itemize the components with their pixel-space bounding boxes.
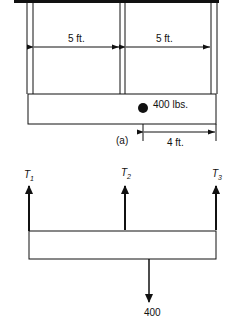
offset-label: 4 ft.	[167, 137, 184, 148]
tension-1-label: T1	[24, 169, 34, 182]
ceiling-bar	[14, 0, 219, 3]
cable-middle	[120, 3, 125, 94]
beam-b	[29, 231, 216, 259]
figure-a-caption: (a)	[116, 135, 128, 146]
free-body-diagram: 5 ft. 5 ft. 400 lbs. 4 ft. (a) T1 T2 T3 …	[0, 0, 231, 321]
weight-label: 400 lbs.	[153, 99, 188, 110]
right-span-label: 5 ft.	[156, 33, 173, 44]
figure-a: 5 ft. 5 ft. 400 lbs. 4 ft. (a)	[14, 0, 219, 148]
cable-right	[211, 3, 217, 94]
left-span-label: 5 ft.	[68, 33, 85, 44]
tension-2-label: T2	[121, 167, 131, 180]
cable-left	[27, 3, 33, 94]
figure-b: T1 T2 T3 400	[24, 167, 222, 318]
weight-dot	[138, 103, 148, 113]
tension-3-label: T3	[212, 168, 222, 181]
load-label: 400	[144, 307, 161, 318]
